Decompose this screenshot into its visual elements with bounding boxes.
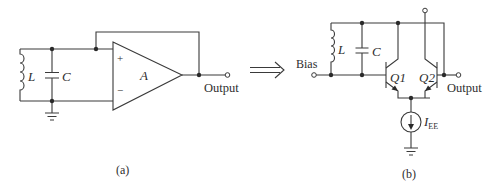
amplifier-label: A (139, 68, 148, 83)
vcc-terminal (423, 8, 428, 13)
inductor-icon (331, 23, 335, 75)
bias-terminal (312, 73, 317, 78)
figure-a-caption: (a) (116, 163, 129, 177)
inductor-label: L (27, 69, 35, 84)
junction-dot (442, 73, 446, 77)
figure-a-opamp-oscillator: L C + − A Output (a) (20, 32, 239, 177)
junction-dot (360, 73, 364, 77)
plus-input-label: + (117, 52, 123, 64)
q1-label: Q1 (390, 70, 406, 85)
capacitor-icon (45, 49, 59, 101)
inductor-label: L (337, 42, 345, 57)
junction-dot (197, 73, 201, 77)
transistor-q1-icon (386, 23, 430, 98)
junction-dot (360, 21, 364, 25)
circuit-diagram: L C + − A Output (a) (0, 0, 496, 193)
figure-b-caption: (b) (402, 167, 416, 181)
capacitor-label: C (372, 44, 381, 59)
bias-label: Bias (296, 57, 318, 71)
figure-b-differential-pair-oscillator: L C Bias Q1 Q2 Output (296, 8, 482, 181)
junction-dot (396, 21, 400, 25)
capacitor-label: C (62, 69, 71, 84)
ground-icon (45, 101, 59, 120)
capacitor-icon (356, 23, 369, 75)
output-terminal (456, 73, 461, 78)
junction-dot (409, 96, 413, 100)
current-source-icon (401, 112, 421, 132)
junction-dot (329, 73, 333, 77)
ground-icon (404, 132, 418, 155)
inductor-icon (20, 49, 24, 101)
q2-label: Q2 (419, 70, 435, 85)
output-terminal (225, 73, 230, 78)
junction-dot (50, 99, 54, 103)
minus-input-label: − (117, 84, 123, 96)
junction-dot (50, 47, 54, 51)
output-label: Output (204, 81, 239, 95)
double-arrow-icon (250, 62, 284, 78)
junction-dot (94, 47, 98, 51)
current-source-label: IEE (423, 114, 438, 131)
output-label: Output (447, 81, 482, 95)
